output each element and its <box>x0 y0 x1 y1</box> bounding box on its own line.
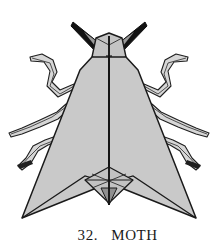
figure-number: 32. <box>78 227 99 243</box>
moth-origami-figure <box>0 0 218 245</box>
figure-caption: 32. MOTH <box>0 210 218 245</box>
left-wing <box>22 57 109 218</box>
left-foreleg <box>30 54 76 97</box>
right-foreleg <box>142 54 188 97</box>
figure-title: MOTH <box>111 227 158 243</box>
right-wing <box>109 57 196 218</box>
figure-page: 32. MOTH <box>0 0 218 245</box>
caption-gap <box>98 227 111 243</box>
